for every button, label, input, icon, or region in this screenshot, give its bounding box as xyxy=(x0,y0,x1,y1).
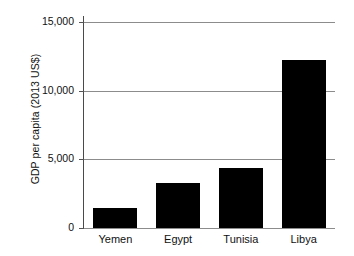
y-axis-tick-mark xyxy=(79,22,84,23)
bar-tunisia xyxy=(219,168,263,228)
x-axis-baseline xyxy=(79,228,335,229)
x-axis-label-yemen: Yemen xyxy=(84,232,147,246)
x-axis-label-libya: Libya xyxy=(272,232,335,246)
bar-chart: GDP per capita (2013 US$) 05,00010,00015… xyxy=(0,0,354,256)
bar-libya xyxy=(282,60,326,228)
y-axis-tick-mark xyxy=(79,91,84,92)
bar-egypt xyxy=(156,183,200,228)
y-axis-tick-mark xyxy=(79,228,84,229)
bar-yemen xyxy=(93,208,137,228)
y-axis-tick-mark xyxy=(79,159,84,160)
x-axis-label-tunisia: Tunisia xyxy=(210,232,273,246)
y-axis-tick-label: 10,000 xyxy=(18,85,74,96)
y-axis-tick-label: 0 xyxy=(18,222,74,233)
gridline xyxy=(84,22,335,23)
y-axis-tick-label: 15,000 xyxy=(18,16,74,27)
x-axis-label-egypt: Egypt xyxy=(147,232,210,246)
y-axis-line xyxy=(83,16,84,229)
y-axis-tick-label: 5,000 xyxy=(18,153,74,164)
x-axis-category-labels: YemenEgyptTunisiaLibya xyxy=(84,232,335,250)
plot-area xyxy=(84,16,335,234)
y-axis-tick-labels: 05,00010,00015,000 xyxy=(16,0,74,256)
